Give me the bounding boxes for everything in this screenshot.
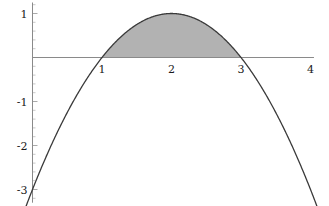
x-tick-label-4: 4 <box>307 64 314 75</box>
x-tick-label-2: 2 <box>168 64 175 75</box>
parabola-plot-svg <box>0 0 329 206</box>
y-tick-label-1: 1 <box>21 8 28 19</box>
y-tick-label-neg3: -3 <box>17 184 28 195</box>
y-tick-label-neg1: -1 <box>17 96 28 107</box>
x-tick-label-1: 1 <box>99 64 106 75</box>
y-axis-minor-ticks <box>33 5 38 199</box>
y-tick-label-neg2: -2 <box>17 140 28 151</box>
chart-canvas: 1 -1 -2 -3 1 2 3 4 <box>0 0 329 206</box>
x-tick-label-3: 3 <box>238 64 245 75</box>
